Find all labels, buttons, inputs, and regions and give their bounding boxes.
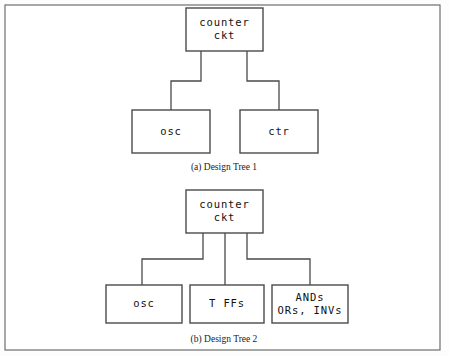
child-node-ands-ors-invs: ANDsORs, INVs <box>272 285 348 323</box>
child-node-t-ffs: T FFs <box>190 285 264 323</box>
node-label-line: T FFs <box>209 297 245 309</box>
node-label-line: osc <box>160 125 182 137</box>
node-label-line: ctr <box>268 125 290 137</box>
child-node-ctr: ctr <box>240 110 318 153</box>
diagram-caption: (b) Design Tree 2 <box>191 334 258 345</box>
node-label-line: ANDs <box>296 291 325 303</box>
child-node-osc: osc <box>106 285 182 323</box>
node-label-line: counter <box>199 16 250 28</box>
design-tree-figure: countercktoscctr(a) Design Tree 1counter… <box>0 0 449 356</box>
root-node-counter-ckt: counterckt <box>186 190 263 233</box>
node-label-line: ckt <box>214 29 236 41</box>
child-node-osc: osc <box>132 110 210 153</box>
figure-container: countercktoscctr(a) Design Tree 1counter… <box>0 0 449 356</box>
node-label-line: ORs, INVs <box>278 304 343 316</box>
node-label-line: ckt <box>214 211 236 223</box>
node-label-line: counter <box>199 198 250 210</box>
diagram-caption: (a) Design Tree 1 <box>191 162 257 173</box>
root-node-counter-ckt: counterckt <box>186 8 263 51</box>
node-label-line: osc <box>133 297 155 309</box>
